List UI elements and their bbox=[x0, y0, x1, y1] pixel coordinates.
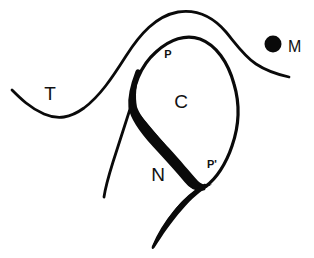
label-p-prime: P' bbox=[207, 158, 217, 170]
label-n: N bbox=[151, 164, 165, 185]
label-t: T bbox=[44, 83, 56, 104]
label-m: M bbox=[288, 38, 301, 55]
diagram-canvas: T P C N P' M bbox=[0, 0, 314, 258]
solid-round-marker-icon bbox=[265, 36, 282, 53]
line-diagram: T P C N P' M bbox=[0, 0, 314, 258]
label-p: P bbox=[164, 48, 171, 60]
label-c: C bbox=[174, 91, 188, 112]
